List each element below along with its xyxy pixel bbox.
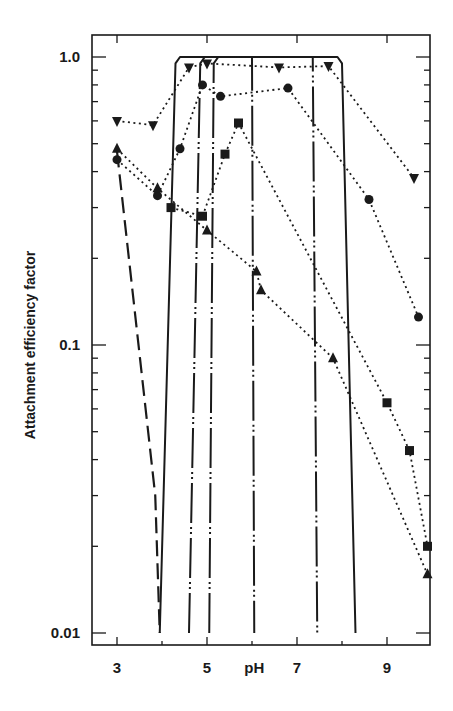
inverted-triangle-marker xyxy=(324,62,334,72)
inverted-triangle-marker xyxy=(202,59,212,69)
circle-marker xyxy=(153,191,162,200)
triangle-marker xyxy=(252,265,262,275)
square-marker xyxy=(383,398,392,407)
inverted-triangle-marker xyxy=(148,121,158,131)
square-marker xyxy=(423,542,432,551)
square-marker xyxy=(198,212,207,221)
inverted-triangle-line xyxy=(117,63,414,178)
y-tick-label: 1.0 xyxy=(59,48,80,65)
dash-dot-2 xyxy=(209,57,254,633)
inverted-triangle-marker xyxy=(274,63,284,73)
x-tick-label: 7 xyxy=(293,659,301,676)
y-tick-label: 0.01 xyxy=(51,624,80,641)
y-axis-label: Attachment efficiency factor xyxy=(22,251,38,439)
long-dash-curve xyxy=(117,151,160,633)
chart: 0.010.11.03579pH Attachment efficiency f… xyxy=(0,0,453,711)
solid-envelope xyxy=(160,57,356,633)
plot-area: 0.010.11.03579pH xyxy=(0,0,453,711)
inverted-triangle-marker xyxy=(112,117,122,127)
circle-marker xyxy=(113,155,122,164)
square-marker xyxy=(405,446,414,455)
triangle-marker xyxy=(112,143,122,153)
square-marker xyxy=(221,150,230,159)
circle-marker xyxy=(176,144,185,153)
circle-marker xyxy=(414,313,423,322)
y-tick-label: 0.1 xyxy=(59,336,80,353)
circle-line xyxy=(117,85,419,317)
triangle-marker xyxy=(423,568,433,578)
inverted-triangle-marker xyxy=(409,174,419,184)
square-marker xyxy=(167,203,176,212)
inverted-triangle-marker xyxy=(184,63,194,73)
plot-frame xyxy=(92,35,430,645)
square-marker xyxy=(234,118,243,127)
x-tick-label: 5 xyxy=(203,659,211,676)
triangle-marker xyxy=(202,224,212,234)
circle-marker xyxy=(284,84,293,93)
x-tick-label: 9 xyxy=(383,659,391,676)
square-line xyxy=(171,123,428,546)
x-axis-label: pH xyxy=(244,659,264,676)
circle-marker xyxy=(198,80,207,89)
circle-marker xyxy=(365,195,374,204)
circle-marker xyxy=(216,92,225,101)
x-tick-label: 3 xyxy=(113,659,121,676)
triangle-marker xyxy=(256,284,266,294)
